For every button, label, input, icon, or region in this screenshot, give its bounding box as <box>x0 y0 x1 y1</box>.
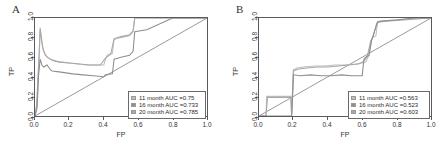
x-tick-label-b-4: 0.8 <box>392 121 401 128</box>
x-tick-a-5 <box>207 117 208 120</box>
x-tick-label-b-0: 0.0 <box>253 121 262 128</box>
panel-letter-b: B <box>236 3 244 15</box>
panel-a: A TP 0.0 <box>0 0 224 152</box>
x-tick-label-a-4: 0.8 <box>168 121 177 128</box>
legend-item: 20 month AUC =0.785 <box>131 109 202 116</box>
y-tick-label-a-2: 0.4 <box>27 72 34 81</box>
legend-item: 11 month AUC =0.563 <box>351 95 426 102</box>
legend-item: 11 month AUC =0.75 <box>131 95 202 102</box>
legend-label: 16 month AUC =0.523 <box>359 102 418 109</box>
panel-letter-a: A <box>12 3 20 15</box>
x-tick-label-a-5: 1.0 <box>202 121 211 128</box>
x-tick-b-1 <box>292 117 293 120</box>
panel-b: B TP 0.0 <box>224 0 448 152</box>
legend-swatch-icon <box>351 103 356 108</box>
legend-label: 16 month AUC =0.733 <box>139 102 198 109</box>
x-axis-title-a: FP <box>117 131 126 138</box>
legend-swatch-icon <box>131 110 136 115</box>
x-tick-label-a-2: 0.4 <box>98 121 107 128</box>
y-tick-label-b-5: 1.0 <box>251 12 258 21</box>
y-axis-title-a: TP <box>7 67 16 77</box>
legend-item: 16 month AUC =0.733 <box>131 102 202 109</box>
legend-item: 16 month AUC =0.523 <box>351 102 426 109</box>
y-axis-title-b: TP <box>231 67 240 77</box>
legend-label: 20 month AUC =0.603 <box>359 109 418 116</box>
y-tick-label-b-2: 0.4 <box>251 72 258 81</box>
legend-swatch-icon <box>351 110 356 115</box>
legend-swatch-icon <box>131 103 136 108</box>
x-axis-title-b: FP <box>341 131 350 138</box>
y-tick-label-a-5: 1.0 <box>27 12 34 21</box>
x-tick-label-a-1: 0.2 <box>63 121 72 128</box>
legend-swatch-icon <box>131 96 136 101</box>
y-tick-label-b-4: 0.8 <box>251 32 258 41</box>
y-tick-label-b-1: 0.2 <box>251 92 258 101</box>
x-tick-label-b-1: 0.2 <box>287 121 296 128</box>
y-tick-label-a-1: 0.2 <box>27 92 34 101</box>
legend-b: 11 month AUC =0.563 16 month AUC =0.523 … <box>348 91 430 119</box>
y-tick-label-b-0: 0.0 <box>251 112 258 121</box>
legend-a: 11 month AUC =0.75 16 month AUC =0.733 2… <box>128 91 206 119</box>
legend-swatch-icon <box>351 96 356 101</box>
y-tick-label-a-4: 0.8 <box>27 32 34 41</box>
legend-label: 20 month AUC =0.785 <box>139 109 198 116</box>
x-tick-label-b-5: 1.0 <box>426 121 435 128</box>
x-tick-a-0 <box>34 117 35 120</box>
x-tick-b-2 <box>327 117 328 120</box>
roc-figure: A TP 0.0 <box>0 0 448 152</box>
x-tick-b-0 <box>258 117 259 120</box>
legend-item: 20 month AUC =0.603 <box>351 109 426 116</box>
x-tick-label-b-2: 0.4 <box>322 121 331 128</box>
legend-label: 11 month AUC =0.563 <box>359 95 418 102</box>
legend-label: 11 month AUC =0.75 <box>139 95 194 102</box>
y-tick-label-a-3: 0.6 <box>27 52 34 61</box>
x-tick-b-5 <box>431 117 432 120</box>
y-tick-label-a-0: 0.0 <box>27 112 34 121</box>
x-tick-label-a-0: 0.0 <box>29 121 38 128</box>
x-tick-label-a-3: 0.6 <box>133 121 142 128</box>
y-tick-label-b-3: 0.6 <box>251 52 258 61</box>
x-tick-a-2 <box>103 117 104 120</box>
x-tick-label-b-3: 0.6 <box>357 121 366 128</box>
x-tick-a-1 <box>68 117 69 120</box>
